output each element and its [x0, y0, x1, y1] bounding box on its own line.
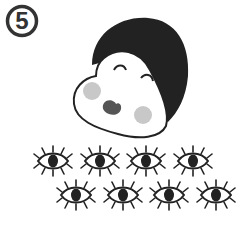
eye-icon — [34, 146, 72, 176]
eye-icon — [197, 180, 235, 210]
otafuku-illustration — [0, 0, 251, 233]
eye-icon — [150, 180, 188, 210]
face-icon — [74, 18, 188, 137]
eye-row-2 — [57, 180, 235, 210]
eye-icon — [104, 180, 142, 210]
eye-icon — [174, 146, 212, 176]
eye-icon — [127, 146, 165, 176]
eye-icon — [81, 146, 119, 176]
eye-row-1 — [34, 146, 212, 176]
eye-icon — [57, 180, 95, 210]
